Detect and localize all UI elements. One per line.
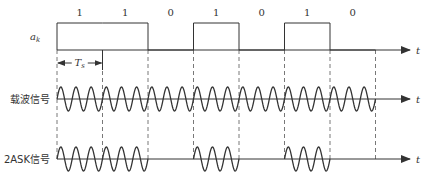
ts-period-indicator: Ts [58,50,103,70]
bit-value-labels: 1101010 [77,7,356,18]
bit-label: 0 [259,7,265,18]
ak-label: ak [30,31,40,44]
ts-label: Ts [75,57,86,70]
bit-label: 1 [122,7,128,18]
bit-label: 0 [350,7,356,18]
ask-label: 2ASK信号 [4,154,50,165]
carrier-label: 载波信号 [10,93,50,105]
ak-waveform [57,23,376,50]
bit-label: 1 [213,7,219,18]
ask-signal: 2ASK信号 t [4,147,421,171]
carrier-signal: 载波信号 t [10,87,421,111]
ask-t-label: t [416,154,421,165]
bit-label: 0 [168,7,174,18]
2ask-diagram: 1101010 ak t Ts 载波信号 t 2ASK信号 t [0,0,427,187]
ak-signal: ak t [30,23,421,56]
bit-label: 1 [304,7,310,18]
bit-label: 1 [77,7,83,18]
ak-t-label: t [416,45,421,56]
bit-boundary-lines [57,50,376,159]
carrier-t-label: t [416,94,421,105]
